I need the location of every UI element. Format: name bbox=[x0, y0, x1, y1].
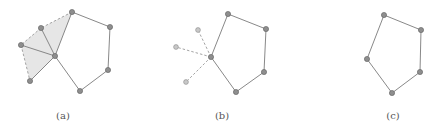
solid-edge bbox=[72, 12, 110, 27]
graph-node bbox=[52, 53, 57, 58]
caption-a: (a) bbox=[56, 110, 70, 121]
graph-node bbox=[107, 24, 112, 29]
solid-edge bbox=[228, 14, 266, 29]
graph-node bbox=[105, 67, 110, 72]
graph-node bbox=[208, 54, 213, 59]
panel-b bbox=[174, 11, 269, 94]
ghost-node bbox=[174, 45, 179, 50]
dashed-edge bbox=[186, 57, 211, 82]
ghost-node bbox=[184, 80, 189, 85]
solid-edge bbox=[367, 59, 392, 93]
solid-edge bbox=[108, 27, 110, 70]
panel-c bbox=[364, 12, 423, 95]
ghost-node bbox=[196, 28, 201, 33]
solid-edge bbox=[236, 72, 264, 92]
graph-node bbox=[225, 11, 230, 16]
graph-node bbox=[263, 26, 268, 31]
graph-node bbox=[364, 56, 369, 61]
panel-a bbox=[18, 9, 112, 93]
graph-node bbox=[69, 9, 74, 14]
dashed-edge bbox=[198, 30, 211, 57]
graph-diagram-canvas: (a) (b) (c) bbox=[0, 0, 428, 130]
solid-edge bbox=[211, 14, 228, 57]
solid-edge bbox=[392, 72, 420, 93]
solid-edge bbox=[211, 57, 236, 92]
solid-edge bbox=[420, 30, 421, 72]
graph-node bbox=[18, 42, 23, 47]
solid-edge bbox=[264, 29, 266, 72]
solid-edge bbox=[384, 15, 421, 30]
graph-node bbox=[27, 78, 32, 83]
solid-edge bbox=[80, 70, 108, 91]
graph-node bbox=[417, 69, 422, 74]
graph-node bbox=[381, 12, 386, 17]
caption-c: (c) bbox=[386, 110, 400, 121]
caption-b: (b) bbox=[215, 110, 229, 121]
solid-edge bbox=[367, 15, 384, 59]
graph-node bbox=[261, 69, 266, 74]
dashed-edge bbox=[176, 47, 211, 57]
graph-node bbox=[233, 89, 238, 94]
graph-node bbox=[389, 90, 394, 95]
graph-node bbox=[38, 25, 43, 30]
graph-node bbox=[418, 27, 423, 32]
solid-edge bbox=[55, 56, 80, 91]
graph-node bbox=[77, 88, 82, 93]
